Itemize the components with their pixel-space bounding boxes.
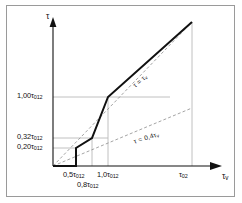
y-tick-label-032: 0,32τ012 <box>17 133 42 141</box>
y-axis-title: τ <box>46 12 49 21</box>
x-tick-label-05: 0,5τ012 <box>63 171 84 179</box>
figure-container: 1,00τ012 0,32τ012 0,20τ012 0,5τ012 0,8τ0… <box>0 0 242 203</box>
reference-line-equal <box>53 22 192 166</box>
y-tick-label-020: 0,20τ012 <box>17 143 42 151</box>
x-axis-title: τv <box>222 172 228 181</box>
x-tick-label-08: 0,8τ012 <box>77 181 98 189</box>
y-tick-label-100: 1,00τ012 <box>17 92 42 100</box>
x-tick-label-02: τ02 <box>179 171 188 179</box>
x-axis-arrow-icon <box>210 162 222 170</box>
reference-line-quarter <box>53 108 192 166</box>
x-tick-label-10: 1,0τ012 <box>97 171 118 179</box>
y-axis-arrow-icon <box>50 17 57 27</box>
chart-plot <box>0 0 242 203</box>
